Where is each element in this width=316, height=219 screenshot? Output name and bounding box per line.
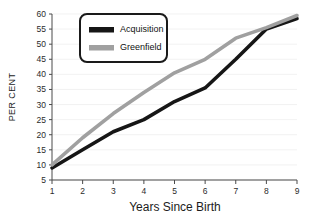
y-tick-label: 5 <box>41 175 46 185</box>
x-tick-label: 7 <box>233 186 238 196</box>
legend-label-acquisition: Acquisition <box>120 24 164 34</box>
x-tick-group: 123456789 <box>50 180 300 196</box>
y-tick-label: 25 <box>37 115 47 125</box>
y-tick-label: 40 <box>37 69 47 79</box>
y-tick-label: 20 <box>37 130 47 140</box>
legend[interactable]: AcquisitionGreenfield <box>80 14 167 62</box>
x-tick-label: 6 <box>203 186 208 196</box>
x-tick-label: 2 <box>80 186 85 196</box>
y-axis-title: PER CENT <box>7 73 17 122</box>
y-tick-label: 30 <box>37 100 47 110</box>
x-tick-label: 5 <box>172 186 177 196</box>
legend-swatch-acquisition <box>89 27 114 33</box>
legend-swatch-greenfield <box>89 45 114 51</box>
x-tick-label: 9 <box>295 186 300 196</box>
x-tick-label: 8 <box>264 186 269 196</box>
y-tick-group: 51015202530354045505560 <box>37 9 52 185</box>
x-tick-label: 1 <box>50 186 55 196</box>
y-tick-label: 35 <box>37 84 47 94</box>
y-tick-label: 45 <box>37 54 47 64</box>
line-chart: 51015202530354045505560 123456789 Years … <box>0 0 316 219</box>
legend-label-greenfield: Greenfield <box>120 42 162 52</box>
x-tick-label: 3 <box>111 186 116 196</box>
x-tick-label: 4 <box>142 186 147 196</box>
x-axis-title: Years Since Birth <box>129 200 221 214</box>
chart-container: 51015202530354045505560 123456789 Years … <box>0 0 316 219</box>
y-tick-label: 50 <box>37 39 47 49</box>
y-tick-label: 55 <box>37 24 47 34</box>
y-tick-label: 60 <box>37 9 47 19</box>
y-tick-label: 10 <box>37 160 47 170</box>
legend-box <box>80 14 167 62</box>
y-tick-label: 15 <box>37 145 47 155</box>
